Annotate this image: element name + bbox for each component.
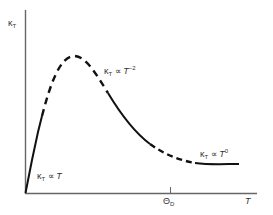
curve-high-t-solid: [195, 163, 239, 164]
curve-transition-dashed: [150, 144, 195, 163]
thermal-conductivity-plot: [0, 0, 273, 215]
curve-peak-dashed: [42, 56, 108, 116]
theta-d-label: ΘD: [163, 196, 174, 207]
curve-mid-solid: [108, 93, 150, 144]
annotation-linear: κT ∝ T: [37, 171, 62, 182]
y-axis-label: κT: [8, 18, 16, 29]
annotation-t-zero: κT ∝ T0: [200, 148, 228, 160]
annotation-t-minus-2: κT ∝ T−2: [104, 65, 136, 77]
x-axis-label: T: [245, 196, 251, 206]
